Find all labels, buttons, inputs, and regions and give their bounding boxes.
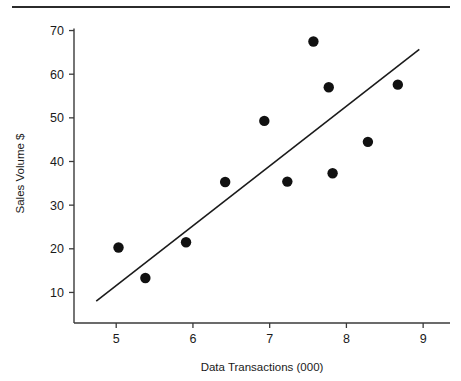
y-tick-label: 40 (50, 155, 64, 169)
data-point (113, 242, 123, 252)
data-point (181, 237, 191, 247)
y-tick-label: 10 (50, 286, 64, 300)
x-axis: 56789 (74, 323, 450, 346)
x-tick-label: 8 (343, 332, 350, 346)
data-point (220, 177, 230, 187)
x-axis-title: Data Transactions (000) (201, 361, 324, 373)
y-tick-label: 70 (50, 24, 64, 38)
y-axis: 10203040506070 (50, 24, 74, 323)
data-point (327, 168, 337, 178)
x-tick-group: 56789 (113, 323, 427, 346)
scatter-plot-figure: 10203040506070 56789 Data Transactions (… (0, 0, 461, 381)
data-point-group (113, 36, 403, 283)
data-point (308, 36, 318, 46)
data-point (324, 82, 334, 92)
x-tick-label: 6 (189, 332, 196, 346)
x-tick-label: 5 (113, 332, 120, 346)
data-point (140, 273, 150, 283)
x-tick-label: 7 (266, 332, 273, 346)
y-tick-group: 10203040506070 (50, 24, 74, 300)
data-point (259, 116, 269, 126)
y-tick-label: 50 (50, 111, 64, 125)
y-tick-label: 30 (50, 199, 64, 213)
chart-canvas: 10203040506070 56789 Data Transactions (… (0, 0, 461, 381)
y-tick-label: 60 (50, 68, 64, 82)
trend-line-group (96, 49, 419, 301)
data-point (393, 79, 403, 89)
y-axis-title: Sales Volume $ (14, 133, 26, 214)
regression-line (96, 49, 419, 301)
x-tick-label: 9 (420, 332, 427, 346)
data-point (282, 176, 292, 186)
data-point (363, 137, 373, 147)
y-tick-label: 20 (50, 242, 64, 256)
